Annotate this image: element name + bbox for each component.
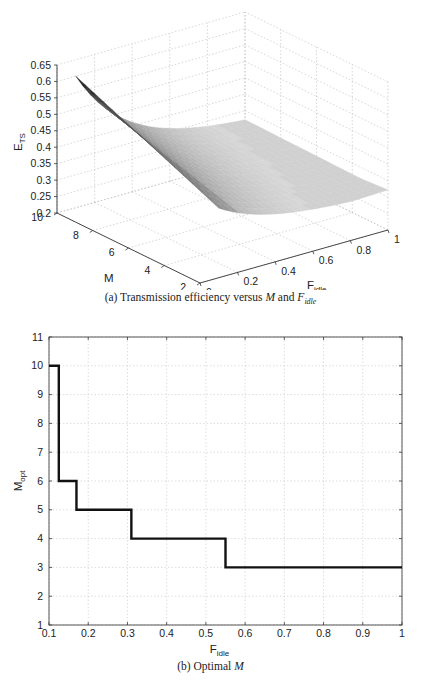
step-chart-panel: 0.10.20.30.40.50.60.70.80.91123456789101… [0, 310, 421, 660]
f-tick-label: 0 [206, 286, 212, 290]
m-tick-label: 2 [180, 281, 186, 290]
caption-a: (a) Transmission efficiency versus M and… [0, 291, 421, 306]
z-axis-label: ETS [12, 133, 27, 151]
z-tick-label: 0.5 [36, 108, 51, 120]
surface-chart-panel: 0.650.60.550.50.450.40.350.30.250.210864… [0, 0, 421, 300]
y-tick-label: 11 [32, 331, 43, 343]
y-tick-label: 6 [37, 475, 43, 487]
y-tick-label: 7 [37, 446, 43, 458]
f-tick-label: 0.4 [281, 265, 296, 277]
f-axis-label: Fidle [307, 279, 327, 290]
y-tick-label: 8 [37, 417, 43, 429]
z-tick-label: 0.35 [31, 157, 52, 169]
caption-b: (b) Optimal M [0, 660, 421, 672]
grid [49, 337, 402, 625]
f-tick-label: 0.8 [356, 244, 371, 256]
m-axis-label: M [104, 272, 114, 284]
f-tick-label: 0.6 [319, 254, 334, 266]
z-tick-label: 0.25 [31, 190, 52, 202]
y-tick-label: 4 [37, 532, 43, 544]
surface-chart: 0.650.60.550.50.450.40.350.30.250.210864… [0, 0, 421, 290]
m-tick-label: 6 [109, 246, 115, 258]
y-tick-label: 10 [31, 359, 43, 371]
x-tick-label: 0.5 [199, 627, 214, 639]
f-tick-label: 0.2 [244, 275, 259, 287]
x-tick-label: 0.2 [81, 627, 96, 639]
y-tick-label: 9 [37, 388, 43, 400]
surface-mesh [76, 76, 388, 214]
mopt-step-line [49, 366, 402, 568]
f-tick-label: 1 [394, 233, 400, 245]
z-tick-label: 0.3 [36, 174, 51, 186]
z-tick-label: 0.6 [36, 75, 51, 87]
x-tick-label: 0.9 [355, 627, 370, 639]
y-tick-label: 3 [37, 561, 43, 573]
y-tick-label: 2 [37, 590, 43, 602]
m-tick-label: 10 [31, 211, 43, 223]
m-tick-label: 4 [144, 264, 150, 276]
z-tick-label: 0.65 [31, 59, 52, 71]
step-chart: 0.10.20.30.40.50.60.70.80.91123456789101… [0, 310, 421, 660]
x-tick-label: 0.3 [120, 627, 135, 639]
y-axis-label: Mopt [12, 470, 27, 491]
z-tick-label: 0.45 [31, 124, 52, 136]
x-tick-label: 1 [399, 627, 405, 639]
y-tick-label: 5 [37, 503, 43, 515]
z-tick-label: 0.55 [31, 91, 52, 103]
x-tick-label: 0.4 [159, 627, 174, 639]
x-tick-label: 0.1 [42, 627, 57, 639]
m-tick-label: 8 [73, 229, 79, 241]
x-tick-label: 0.8 [316, 627, 331, 639]
x-axis-label: Fidle [210, 643, 230, 658]
z-tick-label: 0.4 [36, 141, 51, 153]
x-tick-label: 0.7 [277, 627, 292, 639]
y-tick-label: 1 [37, 619, 43, 631]
x-tick-label: 0.6 [238, 627, 253, 639]
